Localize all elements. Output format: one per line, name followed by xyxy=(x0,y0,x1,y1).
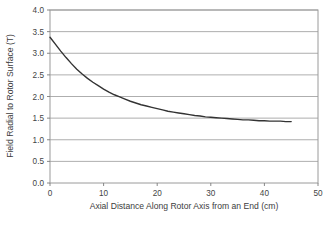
x-tick-label: 0 xyxy=(48,189,53,198)
x-tick-label: 40 xyxy=(260,189,270,198)
y-tick-label: 2.0 xyxy=(33,93,45,102)
y-tick-label: 0.0 xyxy=(33,179,45,188)
x-tick-label: 10 xyxy=(99,189,109,198)
y-tick-label: 4.0 xyxy=(33,6,45,15)
y-tick-label: 2.5 xyxy=(33,71,45,80)
chart-svg: 0.00.51.01.52.02.53.03.54.0 01020304050 … xyxy=(0,0,333,225)
y-tick-label: 1.0 xyxy=(33,136,45,145)
y-tick-label: 0.5 xyxy=(33,157,45,166)
x-tick-label: 50 xyxy=(313,189,323,198)
y-axis-title: Field Radial to Rotor Surface (T) xyxy=(5,34,15,158)
y-tick-label: 1.5 xyxy=(33,114,45,123)
x-tick-label: 30 xyxy=(206,189,216,198)
y-tick-label: 3.5 xyxy=(33,28,45,37)
x-axis-title: Axial Distance Along Rotor Axis from an … xyxy=(90,201,279,211)
chart-container: 0.00.51.01.52.02.53.03.54.0 01020304050 … xyxy=(0,0,333,225)
x-tick-label: 20 xyxy=(153,189,163,198)
y-tick-label: 3.0 xyxy=(33,49,45,58)
